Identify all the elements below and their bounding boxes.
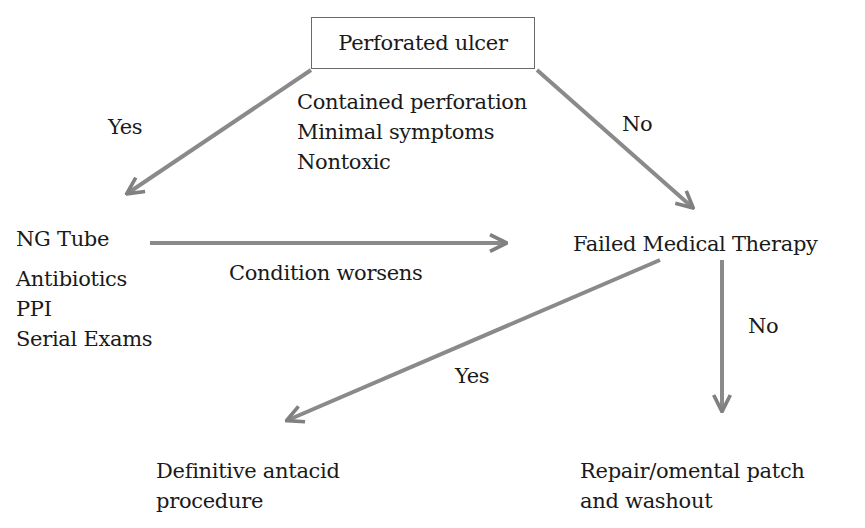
mgmt-serial-exams: Serial Exams xyxy=(16,325,152,353)
definitive-line2: procedure xyxy=(156,487,263,515)
mgmt-antibiotics: Antibiotics xyxy=(16,265,127,293)
failed-medical-therapy-node: Failed Medical Therapy xyxy=(573,230,818,258)
repair-line2: and washout xyxy=(580,487,712,515)
criteria-minimal: Minimal symptoms xyxy=(297,118,494,146)
perforated-ulcer-label: Perforated ulcer xyxy=(338,31,507,55)
repair-line1: Repair/omental patch xyxy=(580,457,805,485)
edge-label-fmt-yes: Yes xyxy=(455,362,489,390)
edge-label-yes: Yes xyxy=(108,113,142,141)
edge-label-no: No xyxy=(622,110,652,138)
criteria-nontoxic: Nontoxic xyxy=(297,148,391,176)
arrow-yes-left xyxy=(128,70,311,193)
mgmt-ng-tube: NG Tube xyxy=(16,225,109,253)
perforated-ulcer-node: Perforated ulcer xyxy=(311,17,535,69)
mgmt-ppi: PPI xyxy=(16,295,52,323)
arrow-no-right xyxy=(537,70,692,207)
edge-label-fmt-no: No xyxy=(748,312,778,340)
criteria-contained: Contained perforation xyxy=(297,88,527,116)
flowchart: Perforated ulcer Contained perforation M… xyxy=(0,0,865,528)
definitive-line1: Definitive antacid xyxy=(156,457,340,485)
arrows-layer xyxy=(0,0,865,528)
edge-label-condition-worsens: Condition worsens xyxy=(229,259,422,287)
